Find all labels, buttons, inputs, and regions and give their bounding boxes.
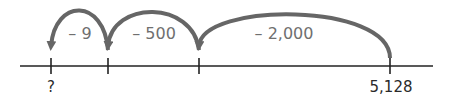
tick-label-unknown: ? bbox=[47, 78, 55, 96]
jump-label-minus-9: – 9 bbox=[68, 24, 91, 43]
jump-label-minus-500: – 500 bbox=[132, 24, 176, 43]
tick-label-5128: 5,128 bbox=[370, 78, 413, 96]
jump-label-minus-2000: – 2,000 bbox=[255, 24, 314, 43]
